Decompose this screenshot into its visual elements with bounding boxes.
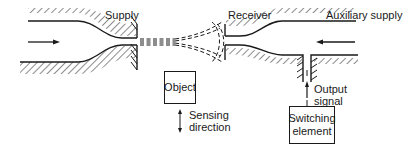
switching-element-box: Switching element (289, 106, 335, 144)
fluid-jet (140, 22, 224, 62)
supply-flow-arrow-icon (28, 40, 60, 45)
switching-element-line1: Switching (288, 112, 335, 125)
receiver-label: Receiver (228, 9, 271, 21)
auxiliary-flow-arrow-icon (316, 40, 355, 45)
auxiliary-supply-label: Auxiliary supply (326, 9, 402, 21)
object-label: Object (164, 81, 196, 94)
sensing-direction-line2: direction (189, 121, 231, 133)
output-signal-line (305, 70, 309, 106)
sensing-direction-label: Sensing direction (189, 109, 231, 133)
output-signal-label: Output signal (314, 83, 347, 107)
output-signal-line1: Output (314, 83, 347, 95)
switching-element-line2: element (292, 125, 331, 138)
object-box: Object (164, 71, 196, 104)
supply-label: Supply (105, 9, 139, 21)
sensing-direction-line1: Sensing (189, 109, 231, 121)
sensing-direction-arrow-icon (178, 109, 182, 133)
